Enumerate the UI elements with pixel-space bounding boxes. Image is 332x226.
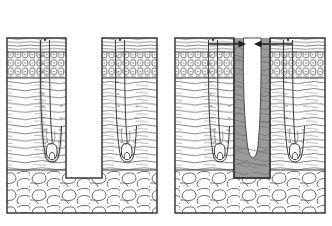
dermal-papilla <box>49 152 55 159</box>
dermal-papilla <box>292 152 298 159</box>
dermal-papilla <box>124 152 130 159</box>
panel-left <box>7 1 157 213</box>
dermal-papilla <box>217 152 223 159</box>
hair-shaft <box>213 6 230 40</box>
hair-shaft <box>120 6 137 40</box>
hair-shaft <box>288 2 305 41</box>
hair-shaft <box>45 2 62 41</box>
panel-right <box>175 1 325 213</box>
figure-canvas <box>0 0 332 226</box>
granulation-tissue <box>234 38 270 178</box>
open-wound-defect <box>66 38 102 178</box>
wound-healing-diagram <box>0 0 332 226</box>
